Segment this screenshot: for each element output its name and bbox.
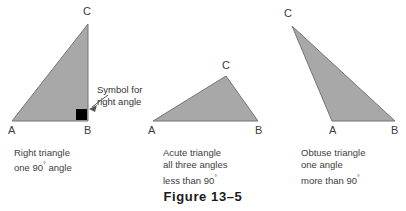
obtuse-triangle-label-b: B: [391, 125, 398, 136]
acute-triangle-caption-line1: Acute triangle: [163, 147, 227, 159]
obtuse-triangle-label-c: C: [284, 8, 292, 19]
acute-triangle-caption: Acute triangle all three angles less tha…: [163, 147, 227, 187]
acute-triangle-label-c: C: [222, 60, 230, 71]
right-angle-callout-line1: Symbol for: [97, 84, 142, 96]
right-triangle-label-a: A: [8, 125, 15, 136]
obtuse-triangle-label-a: A: [329, 125, 336, 136]
obtuse-triangle-caption: Obtuse triangle one angle more than 90°: [301, 147, 365, 187]
degree-symbol: °: [214, 174, 217, 181]
acute-triangle-caption-line2: all three angles: [163, 159, 227, 171]
acute-triangle-label-a: A: [148, 125, 155, 136]
right-triangle-caption-line2: one 90° angle: [14, 159, 72, 175]
acute-triangle-caption-line3-text: less than 90: [163, 175, 214, 186]
acute-triangle-label-b: B: [255, 125, 262, 136]
obtuse-triangle-caption-line1: Obtuse triangle: [301, 147, 365, 159]
obtuse-triangle-shape: [292, 26, 395, 121]
obtuse-triangle-caption-line3-text: more than 90: [301, 175, 357, 186]
right-triangle-caption: Right triangle one 90° angle: [14, 147, 72, 175]
figure-label: Figure 13–5: [0, 189, 406, 204]
right-triangle-label-b: B: [84, 125, 91, 136]
right-triangle-caption-line2-suffix: angle: [46, 163, 72, 174]
right-triangle-label-c: C: [83, 6, 91, 17]
right-angle-callout: Symbol for right angle: [97, 84, 142, 109]
acute-triangle-caption-line3: less than 90°: [163, 172, 227, 188]
right-triangle-caption-line2-text: one 90: [14, 163, 43, 174]
right-angle-callout-line2: right angle: [97, 96, 142, 108]
degree-symbol: °: [357, 174, 360, 181]
obtuse-triangle-caption-line3: more than 90°: [301, 172, 365, 188]
right-triangle-shape: [12, 24, 88, 121]
figure-page: A B C A B C C A B Symbol for right angle…: [0, 0, 406, 211]
right-angle-square: [76, 109, 87, 120]
acute-triangle-shape: [153, 76, 258, 121]
obtuse-triangle-caption-line2: one angle: [301, 159, 365, 171]
right-triangle-caption-line1: Right triangle: [14, 147, 72, 159]
